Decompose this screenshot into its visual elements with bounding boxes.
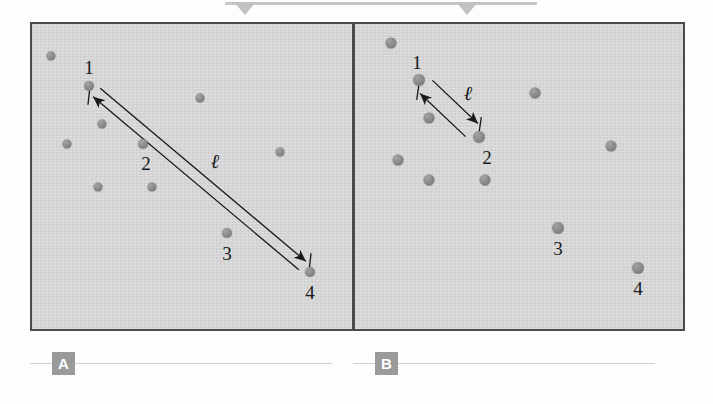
particle-a-bg-6 <box>276 148 285 157</box>
particle-label-a-3: 3 <box>222 244 232 263</box>
particle-a-4 <box>305 267 315 277</box>
top-decoration-bar <box>225 2 537 5</box>
caption-panel-b: B <box>353 352 655 376</box>
particle-a-3 <box>222 228 232 238</box>
particle-label-b-2: 2 <box>482 148 492 167</box>
caption-b-badge: B <box>375 352 398 375</box>
particle-b-1 <box>413 74 425 86</box>
particle-a-bg-4 <box>148 183 157 192</box>
caption-b-rule <box>353 363 655 364</box>
particle-a-2 <box>138 139 148 149</box>
particle-a-1 <box>84 81 94 91</box>
figure-root: 1234ℓ 1234ℓ A B <box>0 0 713 404</box>
particle-a-bg-2 <box>63 140 72 149</box>
caption-a-badge: A <box>52 352 75 375</box>
length-symbol-b: ℓ <box>464 83 472 103</box>
particle-label-a-2: 2 <box>141 154 151 173</box>
particle-b-bg-5 <box>530 88 541 99</box>
length-symbol-a: ℓ <box>211 151 219 171</box>
particle-b-bg-6 <box>606 141 617 152</box>
particle-a-bg-3 <box>94 183 103 192</box>
particle-b-bg-4 <box>480 175 491 186</box>
particle-label-a-4: 4 <box>305 283 315 302</box>
particle-b-3 <box>552 222 564 234</box>
particle-b-bg-2 <box>393 155 404 166</box>
panel-a-texture <box>32 24 352 329</box>
particle-label-b-4: 4 <box>633 279 643 298</box>
caption-a-rule <box>30 363 332 364</box>
particle-b-2 <box>473 131 485 143</box>
particle-label-a-1: 1 <box>84 58 94 77</box>
particle-b-bg-3 <box>424 175 435 186</box>
particle-a-bg-0 <box>47 52 56 61</box>
particle-label-b-3: 3 <box>553 239 563 258</box>
particle-b-bg-1 <box>424 113 435 124</box>
particle-a-bg-1 <box>98 120 107 129</box>
particle-a-bg-5 <box>196 94 205 103</box>
top-notch-triangle-left-icon <box>234 2 256 15</box>
particle-label-b-1: 1 <box>412 53 422 72</box>
caption-panel-a: A <box>30 352 332 376</box>
particle-b-bg-0 <box>386 38 397 49</box>
particle-b-4 <box>632 262 644 274</box>
top-notch-triangle-right-icon <box>456 2 478 15</box>
